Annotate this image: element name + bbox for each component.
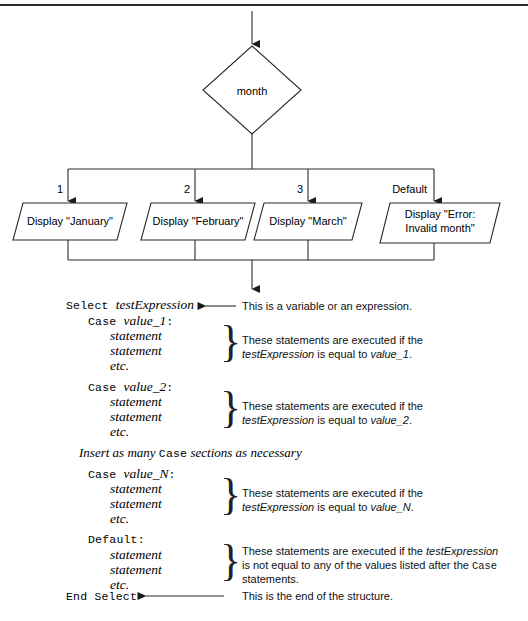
keyword-case-2: Case	[88, 381, 116, 394]
branch-label-2: 2	[168, 183, 190, 196]
colon-case-n: :	[169, 468, 176, 481]
insert-note-keyword-case: Case	[159, 447, 187, 460]
syntax-line-case2-s2: statement	[110, 410, 162, 424]
process-box-default-line1: Display "Error:	[382, 208, 498, 222]
annotation-default-keyword-case: Case	[472, 560, 497, 572]
identifier-value-n: value_N	[124, 466, 169, 481]
flowchart-graphics	[0, 0, 528, 295]
syntax-line-end-select: End Select	[66, 590, 137, 604]
syntax-line-caseN: Case value_N:	[88, 467, 176, 482]
annotation-case-1-mid: is equal to	[314, 348, 370, 360]
process-box-default-line2: Invalid month"	[382, 222, 498, 236]
annotation-end-select: This is the end of the structure.	[242, 589, 393, 604]
identifier-value-1: value_1	[124, 313, 167, 328]
syntax-line-caseN-s1: statement	[110, 482, 162, 496]
brace-case-2: }	[220, 386, 241, 430]
colon-case-1: :	[166, 315, 173, 328]
annotation-case-2-line2: testExpression is equal to value_2.	[242, 413, 412, 428]
syntax-line-case1: Case value_1:	[88, 314, 173, 329]
annotation-case-2-period: .	[409, 414, 412, 426]
syntax-line-case2-s1: statement	[110, 395, 162, 409]
syntax-line-caseN-etc: etc.	[110, 512, 129, 526]
syntax-line-case1-etc: etc.	[110, 359, 129, 373]
annotation-case-n-line1: These statements are executed if the	[242, 486, 423, 501]
annotation-select: This is a variable or an expression.	[242, 299, 412, 314]
colon-case-2: :	[166, 381, 173, 394]
process-box-2-text: Display "February"	[141, 215, 255, 229]
figure-canvas: month 1 2 3 Default Display "January" Di…	[0, 0, 528, 621]
identifier-testexpression: testExpression	[116, 297, 194, 312]
annotation-default-l1a: These statements are executed if the	[242, 545, 426, 557]
syntax-line-insert-note: Insert as many Case sections as necessar…	[79, 446, 302, 461]
syntax-line-select: Select testExpression	[66, 298, 194, 313]
brace-default: }	[220, 539, 241, 583]
annotation-case-n-value: value_N	[370, 501, 410, 513]
keyword-case-n: Case	[88, 468, 116, 481]
insert-note-text-b: sections as necessary	[187, 445, 301, 460]
branch-label-default: Default	[379, 183, 427, 196]
syntax-line-default-s2: statement	[110, 563, 162, 577]
syntax-line-default: Default:	[88, 533, 145, 547]
syntax-line-caseN-s2: statement	[110, 497, 162, 511]
annotation-default-line1: These statements are executed if the tes…	[242, 544, 498, 559]
branch-label-1: 1	[41, 183, 63, 196]
annotation-case-2-testexpr: testExpression	[242, 414, 314, 426]
syntax-line-case2-etc: etc.	[110, 425, 129, 439]
annotation-case-n-testexpr: testExpression	[242, 501, 314, 513]
process-box-1-text: Display "January"	[13, 215, 127, 229]
identifier-value-2: value_2	[124, 379, 167, 394]
insert-note-text-a: Insert as many	[79, 445, 159, 460]
branch-label-3: 3	[281, 183, 303, 196]
syntax-block: Select testExpression Case value_1: stat…	[0, 292, 528, 621]
annotation-case-1-period: .	[409, 348, 412, 360]
annotation-case-2-line1: These statements are executed if the	[242, 399, 423, 414]
keyword-select: Select	[66, 299, 109, 312]
syntax-line-case2: Case value_2:	[88, 380, 173, 395]
annotation-case-1-testexpr: testExpression	[242, 348, 314, 360]
annotation-case-n-line2: testExpression is equal to value_N.	[242, 500, 414, 515]
annotation-case-1-line1: These statements are executed if the	[242, 333, 423, 348]
annotation-case-2-value: value_2	[370, 414, 409, 426]
annotation-default-l2a: is not equal to any of the values listed…	[242, 559, 472, 571]
syntax-line-default-s1: statement	[110, 548, 162, 562]
annotation-default-line3: statements.	[242, 572, 299, 587]
decision-label: month	[203, 85, 301, 98]
annotation-case-n-mid: is equal to	[314, 501, 370, 513]
annotation-case-1-line2: testExpression is equal to value_1.	[242, 347, 412, 362]
annotation-default-testexpr: testExpression	[426, 545, 498, 557]
annotation-case-2-mid: is equal to	[314, 414, 370, 426]
process-box-3-text: Display "March"	[254, 215, 362, 229]
syntax-line-case1-s2: statement	[110, 344, 162, 358]
brace-case-1: }	[220, 320, 241, 364]
annotation-case-1-value: value_1	[370, 348, 409, 360]
annotation-case-n-period: .	[411, 501, 414, 513]
brace-case-n: }	[220, 473, 241, 517]
keyword-case-1: Case	[88, 315, 116, 328]
syntax-line-case1-s1: statement	[110, 329, 162, 343]
